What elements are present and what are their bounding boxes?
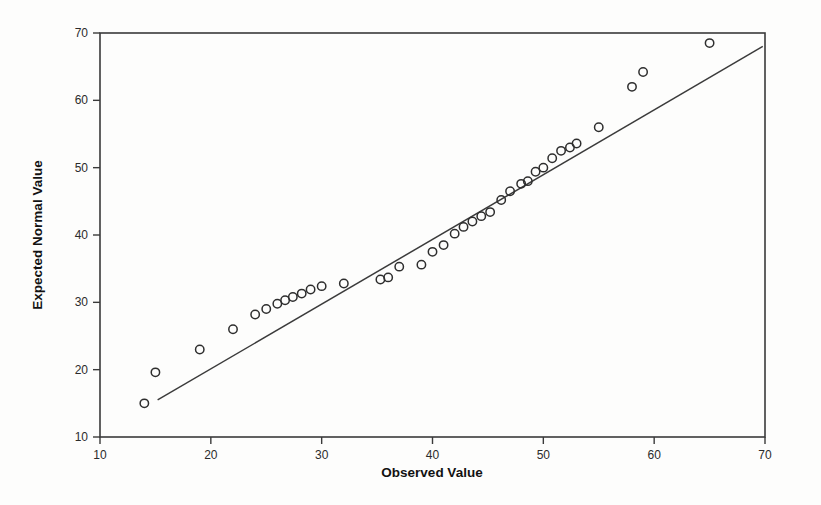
data-point: [298, 289, 306, 297]
x-axis-tick-labels: 10203040506070: [93, 448, 772, 462]
data-point: [705, 39, 713, 47]
y-axis-title: Expected Normal Value: [30, 160, 45, 310]
data-point-series: [140, 39, 714, 408]
normal-reference-line: [158, 46, 763, 400]
data-point: [468, 217, 476, 225]
x-tick-label-70: 70: [758, 448, 772, 462]
data-point: [595, 123, 603, 131]
data-point: [262, 305, 270, 313]
data-point: [477, 212, 485, 220]
data-point: [289, 293, 297, 301]
data-point: [539, 163, 547, 171]
data-point: [417, 260, 425, 268]
plot-canvas: 10203040506070 10203040506070 Observed V…: [0, 0, 821, 505]
x-tick-label-40: 40: [426, 448, 440, 462]
x-tick-label-10: 10: [93, 448, 107, 462]
data-point: [557, 147, 565, 155]
qq-plot-figure: 10203040506070 10203040506070 Observed V…: [0, 0, 821, 505]
data-point: [439, 241, 447, 249]
data-point: [317, 282, 325, 290]
data-point: [196, 345, 204, 353]
data-point: [639, 68, 647, 76]
plot-border: [100, 33, 765, 437]
data-point: [251, 310, 259, 318]
x-tick-label-20: 20: [204, 448, 218, 462]
data-point: [306, 285, 314, 293]
data-point: [151, 368, 159, 376]
x-tick-label-60: 60: [647, 448, 661, 462]
x-tick-label-50: 50: [537, 448, 551, 462]
y-tick-label-40: 40: [75, 228, 89, 242]
data-point: [428, 248, 436, 256]
x-axis-title: Observed Value: [381, 465, 483, 480]
x-tick-label-30: 30: [315, 448, 329, 462]
y-axis-tick-labels: 10203040506070: [75, 26, 89, 444]
data-point: [486, 208, 494, 216]
data-point: [395, 262, 403, 270]
data-point: [548, 154, 556, 162]
y-tick-label-10: 10: [75, 430, 89, 444]
reference-line: [158, 46, 763, 400]
y-tick-label-70: 70: [75, 26, 89, 40]
y-tick-label-30: 30: [75, 295, 89, 309]
data-point: [628, 83, 636, 91]
data-point: [140, 399, 148, 407]
data-point: [229, 325, 237, 333]
data-point: [572, 139, 580, 147]
data-point: [384, 273, 392, 281]
data-point: [340, 279, 348, 287]
plot-frame: [100, 33, 765, 437]
y-tick-label-20: 20: [75, 363, 89, 377]
y-tick-label-50: 50: [75, 161, 89, 175]
data-point: [450, 229, 458, 237]
y-tick-label-60: 60: [75, 93, 89, 107]
data-point: [459, 223, 467, 231]
y-axis-ticks: [93, 33, 100, 437]
x-axis-ticks: [100, 437, 765, 444]
